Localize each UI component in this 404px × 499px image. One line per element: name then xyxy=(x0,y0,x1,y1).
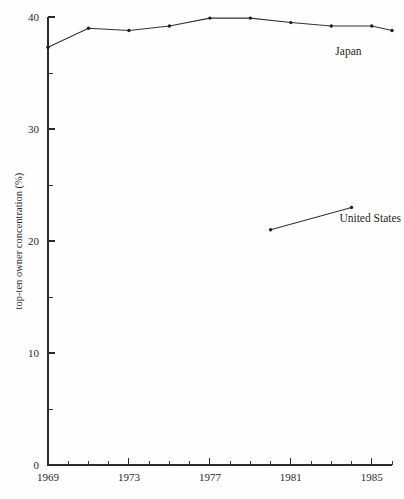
y-tick-label: 10 xyxy=(28,347,40,359)
data-point xyxy=(390,29,393,32)
y-tick-label: 20 xyxy=(28,235,40,247)
data-point xyxy=(168,24,171,27)
x-tick-label: 1981 xyxy=(280,471,302,483)
series-label-japan: Japan xyxy=(335,45,361,58)
data-point xyxy=(208,16,211,19)
data-point xyxy=(269,228,272,231)
series-line-japan xyxy=(48,18,392,47)
data-point xyxy=(127,29,130,32)
x-tick-label: 1985 xyxy=(361,471,384,483)
y-tick-label: 0 xyxy=(34,459,40,471)
x-tick-label: 1977 xyxy=(199,471,222,483)
axis-ticks xyxy=(48,17,392,465)
x-tick-label: 1969 xyxy=(37,471,60,483)
chart-figure: 01020304019691973197719811985 JapanUnite… xyxy=(0,0,404,499)
data-point xyxy=(330,24,333,27)
data-point xyxy=(370,24,373,27)
data-point xyxy=(87,27,90,30)
data-point xyxy=(46,46,49,49)
line-chart-canvas: 01020304019691973197719811985 JapanUnite… xyxy=(0,0,404,499)
data-point xyxy=(289,21,292,24)
data-point xyxy=(249,16,252,19)
series-annotations: JapanUnited States xyxy=(335,45,401,224)
axis-spine xyxy=(48,17,392,465)
data-point xyxy=(350,206,353,209)
x-tick-label: 1973 xyxy=(118,471,141,483)
y-axis-title-text: top-ten owner concentration (%) xyxy=(13,172,25,309)
y-tick-label: 30 xyxy=(28,123,40,135)
axes xyxy=(48,17,392,465)
y-tick-label: 40 xyxy=(28,11,40,23)
axis-tick-labels: 01020304019691973197719811985 xyxy=(28,11,383,483)
y-axis-title: top-ten owner concentration (%) xyxy=(13,172,25,309)
series-label-united-states: United States xyxy=(339,212,401,224)
